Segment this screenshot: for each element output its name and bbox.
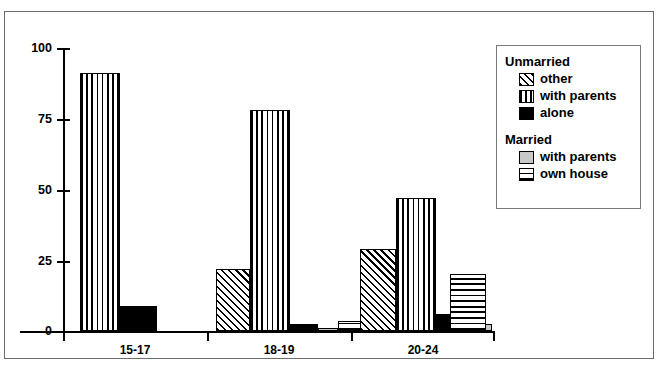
bar-18-19-unmarried-other[interactable] (216, 269, 250, 331)
x-tick-start (63, 331, 65, 341)
x-group-label-18-19: 18-19 (239, 343, 319, 357)
legend-swatch-vertical-lines-icon (519, 90, 534, 103)
chart-page: 100 75 50 25 0 15-17 18-19 20-24 (0, 0, 661, 368)
bar-18-19-unmarried-alone[interactable] (290, 324, 318, 331)
legend-section-title-unmarried: Unmarried (505, 53, 632, 70)
bar-20-24-unmarried-other[interactable] (360, 249, 396, 331)
bar-15-17-unmarried-alone[interactable] (120, 306, 157, 331)
x-tick-group-1-2 (207, 331, 209, 341)
legend-swatch-solid-gray-icon (519, 151, 534, 164)
x-group-label-15-17: 15-17 (95, 343, 175, 357)
x-tick-end (493, 331, 495, 341)
legend-item-unmarried-other[interactable]: other (519, 71, 632, 87)
legend-label-unmarried-with-parents: with parents (540, 89, 617, 103)
legend-item-married-with-parents[interactable]: with parents (519, 149, 632, 165)
legend-section-title-married: Married (505, 131, 632, 148)
plot-area: 100 75 50 25 0 15-17 18-19 20-24 (0, 0, 661, 368)
legend-item-unmarried-alone[interactable]: alone (519, 105, 632, 121)
legend-label-unmarried-alone: alone (540, 106, 574, 120)
legend-swatch-diagonal-hatch-icon (519, 73, 534, 86)
x-tick-group-2-3 (351, 331, 353, 341)
legend-label-married-with-parents: with parents (540, 150, 617, 164)
legend-swatch-solid-black-icon (519, 107, 534, 120)
legend-spacer (505, 122, 632, 131)
bar-18-19-married-with-parents[interactable] (318, 328, 338, 331)
bar-20-24-unmarried-with-parents[interactable] (396, 198, 436, 331)
bar-18-19-unmarried-with-parents[interactable] (250, 110, 290, 331)
legend-item-unmarried-with-parents[interactable]: with parents (519, 88, 632, 104)
x-group-label-20-24: 20-24 (383, 343, 463, 357)
bar-20-24-married-own-house[interactable] (450, 274, 486, 331)
x-axis-line (20, 331, 495, 333)
legend-item-married-own-house[interactable]: own house (519, 166, 632, 182)
legend: Unmarried other with parents alone Marri… (496, 45, 641, 209)
legend-swatch-horizontal-lines-icon (519, 168, 534, 181)
legend-label-unmarried-other: other (540, 72, 573, 86)
legend-label-married-own-house: own house (540, 167, 608, 181)
bar-15-17-unmarried-with-parents[interactable] (80, 73, 120, 331)
